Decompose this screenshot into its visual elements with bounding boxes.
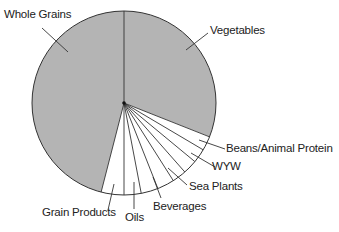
label-sea-plants: Sea Plants [189, 180, 243, 192]
label-grain-products: Grain Products [42, 206, 116, 218]
label-vegetables: Vegetables [210, 24, 265, 36]
label-whole-grains: Whole Grains [4, 8, 71, 20]
label-beans: Beans/Animal Protein [226, 142, 333, 154]
label-oils: Oils [125, 211, 144, 223]
label-beverages: Beverages [153, 200, 206, 212]
center-dot [122, 101, 126, 105]
label-wyw: WYW [212, 160, 241, 172]
pie-chart [0, 0, 339, 232]
